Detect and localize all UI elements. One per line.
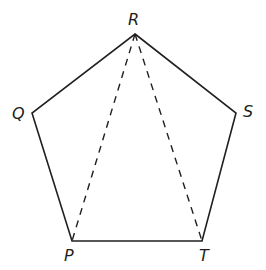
vertex-label-T: T (199, 248, 209, 264)
pentagon-outline (32, 34, 236, 241)
diagonal-RP (72, 34, 135, 241)
diagonal-RT (135, 34, 202, 241)
pentagon-figure (0, 0, 266, 270)
vertex-label-P: P (64, 248, 74, 264)
vertex-label-Q: Q (12, 106, 25, 122)
vertex-label-S: S (243, 104, 253, 120)
pentagon-diagram: R Q S P T (0, 0, 266, 270)
vertex-label-R: R (128, 12, 139, 28)
